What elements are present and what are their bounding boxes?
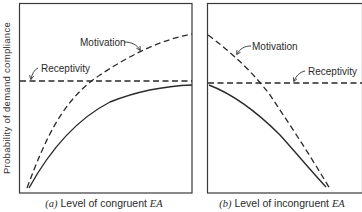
panel-a-frame xyxy=(20,4,193,194)
panel-b-motivation-pointer xyxy=(237,46,251,54)
panel-b-receptivity-label: Receptivity xyxy=(308,66,357,77)
panel-b-caption: (b) Level of incongruent EA xyxy=(219,197,345,210)
panel-b-frame xyxy=(208,4,362,194)
panel-a-receptivity-label: Receptivity xyxy=(41,63,90,74)
panel-a-motivation-curve xyxy=(27,34,192,188)
panel-b: Motivation Receptivity (b) Level of inco… xyxy=(208,4,362,211)
panel-a-motivation-pointer xyxy=(124,42,140,50)
panel-b-compliance-curve xyxy=(209,85,326,187)
panel-a-receptivity-pointer xyxy=(31,68,38,79)
demand-compliance-diagram: Probability of demand compliance Motivat… xyxy=(0,0,362,212)
panel-a-compliance-curve xyxy=(29,85,192,188)
panel-a-motivation-label: Motivation xyxy=(80,37,126,48)
panel-a-caption: (a) Level of congruent EA xyxy=(45,197,163,210)
panel-a: Motivation Receptivity (a) Level of cong… xyxy=(20,4,193,211)
panel-b-motivation-curve xyxy=(208,35,330,189)
y-axis-label: Probability of demand compliance xyxy=(1,22,12,174)
panel-b-motivation-label: Motivation xyxy=(252,41,298,52)
panel-b-receptivity-pointer xyxy=(294,71,305,81)
